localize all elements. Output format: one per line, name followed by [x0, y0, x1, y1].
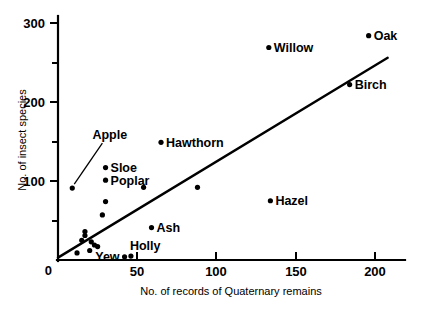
point-label-poplar: Poplar: [111, 174, 150, 188]
x-tick-labels: 50 100 150 200: [130, 264, 386, 279]
point-label-willow: Willow: [274, 41, 314, 55]
data-point: [95, 244, 100, 249]
data-point-sloe: [103, 165, 108, 170]
data-point-hazel: [268, 198, 273, 203]
data-point-hawthorn: [158, 140, 163, 145]
y-axis-ticks: [50, 23, 58, 221]
x-tick-label-100: 100: [205, 264, 227, 279]
data-point: [100, 212, 105, 217]
point-label-hawthorn: Hawthorn: [166, 136, 224, 150]
scatter-plot-figure: 300 200 100 0 50 100 150 200 OakWillowBi…: [0, 0, 423, 312]
x-tick-label-200: 200: [364, 264, 386, 279]
point-label-yew: Yew: [95, 250, 120, 264]
point-labels-layer: OakWillowBirchHawthornSloePoplarAppleHaz…: [92, 29, 397, 264]
x-tick-label-50: 50: [130, 264, 144, 279]
data-point-oak: [366, 33, 371, 38]
point-label-hazel: Hazel: [275, 194, 308, 208]
x-axis-ticks: [137, 252, 375, 260]
plot-canvas: 300 200 100 0 50 100 150 200 OakWillowBi…: [0, 0, 423, 312]
point-label-holly: Holly: [130, 239, 161, 253]
point-label-birch: Birch: [355, 78, 387, 92]
y-axis-title: No. of insect species: [16, 89, 28, 191]
point-label-apple: Apple: [92, 128, 127, 142]
data-point: [87, 248, 92, 253]
data-point-birch: [347, 82, 352, 87]
x-tick-label-150: 150: [285, 264, 307, 279]
x-axis-title: No. of records of Quaternary remains: [140, 285, 322, 297]
data-point-holly: [128, 253, 133, 258]
point-label-ash: Ash: [157, 221, 181, 235]
regression-trendline: [58, 58, 388, 258]
data-point: [103, 199, 108, 204]
data-point-willow: [266, 45, 271, 50]
data-point: [82, 233, 87, 238]
data-point: [74, 250, 79, 255]
data-point: [195, 185, 200, 190]
data-point-ash: [149, 225, 154, 230]
data-point-yew: [122, 254, 127, 259]
y-tick-label-300: 300: [23, 16, 45, 31]
data-point-poplar: [103, 178, 108, 183]
point-label-oak: Oak: [374, 29, 398, 43]
data-point-apple: [70, 186, 75, 191]
y-tick-label-0: 0: [45, 263, 52, 278]
data-point: [79, 238, 84, 243]
apple-leader-line: [74, 143, 102, 184]
